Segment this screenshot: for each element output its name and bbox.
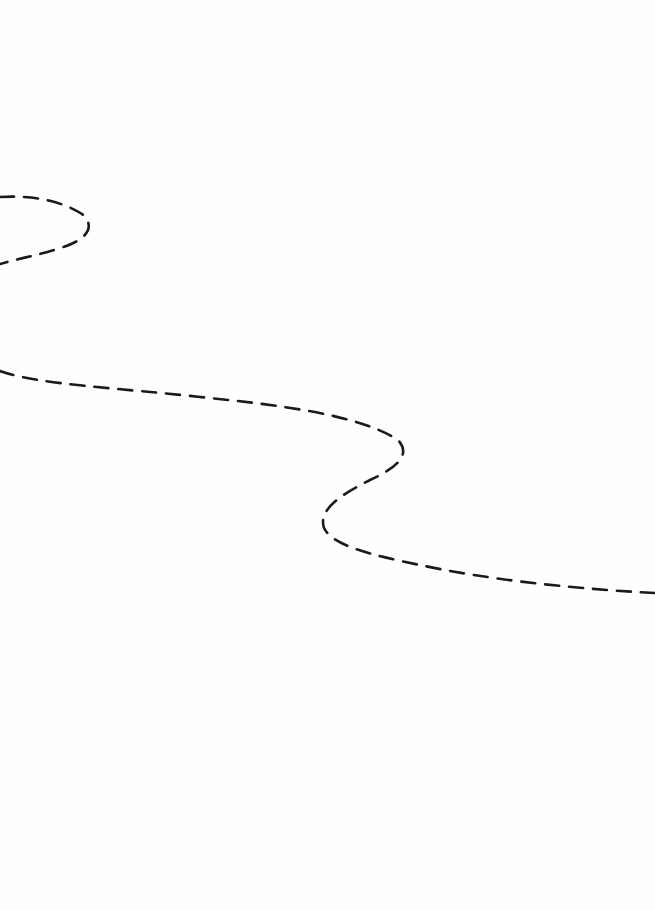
page-canvas bbox=[0, 0, 655, 910]
diagram-svg bbox=[0, 0, 655, 910]
upper-left-loop-curve bbox=[0, 197, 89, 264]
s-curve bbox=[0, 371, 655, 593]
